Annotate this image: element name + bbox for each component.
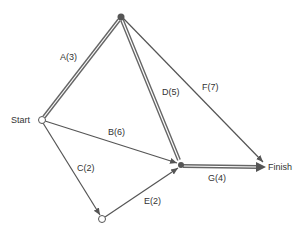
label-finish: Finish xyxy=(268,162,292,172)
label-start: Start xyxy=(11,115,31,125)
node-3 xyxy=(178,162,184,168)
node-1 xyxy=(118,14,125,21)
label-edge-d: D(5) xyxy=(162,87,180,97)
node-2 xyxy=(99,216,106,223)
edge-e xyxy=(105,168,178,217)
node-start xyxy=(39,117,46,124)
edge-f xyxy=(123,18,263,162)
edge-g xyxy=(183,162,266,172)
network-diagram: Start Finish A(3) B(6) C(2) D(5) E(2) F(… xyxy=(0,0,307,237)
label-edge-b: B(6) xyxy=(108,127,125,137)
label-edge-e: E(2) xyxy=(144,196,161,206)
edge-a xyxy=(44,20,119,117)
label-edge-c: C(2) xyxy=(77,163,95,173)
label-edge-f: F(7) xyxy=(202,82,219,92)
label-edge-g: G(4) xyxy=(208,173,226,183)
label-edge-a: A(3) xyxy=(60,52,77,62)
